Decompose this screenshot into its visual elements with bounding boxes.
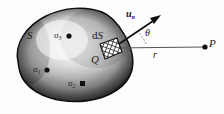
label-distance-r: r	[153, 50, 157, 60]
label-point-Q: Q	[91, 54, 99, 65]
charge-dot-3	[66, 33, 71, 38]
blob-highlight	[36, 20, 88, 60]
label-charge-sigma-1: σ1	[33, 65, 41, 74]
charge-dot-2	[80, 81, 85, 86]
label-un-base: u	[126, 8, 132, 19]
label-dS-italic: S	[98, 29, 104, 41]
label-normal-vector-un: un	[126, 9, 135, 19]
label-angle-theta: θ	[145, 28, 150, 38]
label-point-P: P	[209, 38, 216, 49]
closed-surface-blob	[0, 0, 224, 114]
figure-canvas	[0, 0, 224, 114]
normal-vector-arrow	[116, 15, 161, 46]
label-charge-sigma-3: σ3	[54, 31, 62, 40]
label-sigma1-subscript: 1	[38, 69, 41, 75]
label-sigma2-subscript: 2	[73, 83, 76, 89]
point-p-dot	[202, 44, 207, 49]
label-un-subscript: n	[132, 14, 135, 20]
label-charge-sigma-2: σ2	[68, 79, 76, 88]
label-surface-element-dS: dS	[92, 30, 103, 41]
physics-figure-gauss-surface: S dS Q P r θ un σ1 σ2 σ3	[0, 0, 224, 114]
label-sigma3-subscript: 3	[59, 35, 62, 41]
charge-dot-1	[44, 67, 49, 72]
label-surface-S: S	[27, 30, 33, 41]
